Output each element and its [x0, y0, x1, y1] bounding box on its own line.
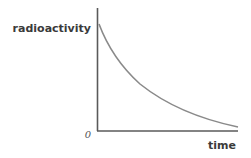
decay-curve — [99, 24, 238, 127]
y-axis-label: radioactivity — [13, 22, 91, 35]
origin-label: 0 — [85, 129, 92, 140]
decay-chart: radioactivity 0 time — [0, 0, 251, 158]
x-axis-label: time — [208, 139, 236, 152]
